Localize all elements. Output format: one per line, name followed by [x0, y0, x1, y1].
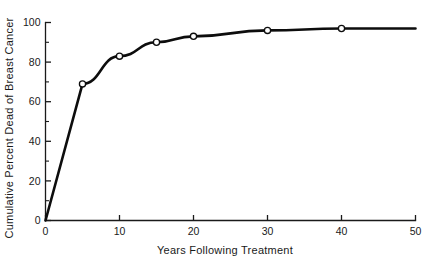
x-axis-tick-label: 40: [336, 225, 348, 237]
x-axis-major-ticks: [46, 215, 416, 221]
x-axis-tick-label: 0: [43, 225, 49, 237]
y-axis-title: Cumulative Percent Dead of Breast Cancer: [3, 17, 15, 238]
y-axis-tick-label: 20: [29, 175, 41, 187]
y-axis-tick-label: 0: [35, 214, 41, 226]
x-axis-title: Years Following Treatment: [157, 244, 293, 256]
x-axis-tick-label: 30: [262, 225, 274, 237]
y-axis-tick-label: 60: [29, 95, 41, 107]
data-point-marker: [338, 25, 344, 31]
x-axis-tick-labels: 01020304050: [43, 225, 422, 237]
chart-figure: 020406080100 01020304050 Years Following…: [0, 0, 433, 262]
data-series-line: [46, 28, 416, 220]
x-axis-tick-label: 10: [114, 225, 126, 237]
y-axis-tick-label: 100: [23, 16, 41, 28]
y-axis-tick-label: 80: [29, 56, 41, 68]
line-chart: 020406080100 01020304050 Years Following…: [0, 0, 433, 262]
data-point-marker: [79, 81, 85, 87]
data-point-marker: [116, 53, 122, 59]
y-axis-tick-label: 40: [29, 135, 41, 147]
x-axis-tick-label: 20: [188, 225, 200, 237]
x-axis-tick-label: 50: [410, 225, 422, 237]
data-point-marker: [264, 27, 270, 33]
data-point-marker: [190, 33, 196, 39]
data-point-marker: [153, 39, 159, 45]
y-axis-tick-labels: 020406080100: [23, 16, 41, 226]
